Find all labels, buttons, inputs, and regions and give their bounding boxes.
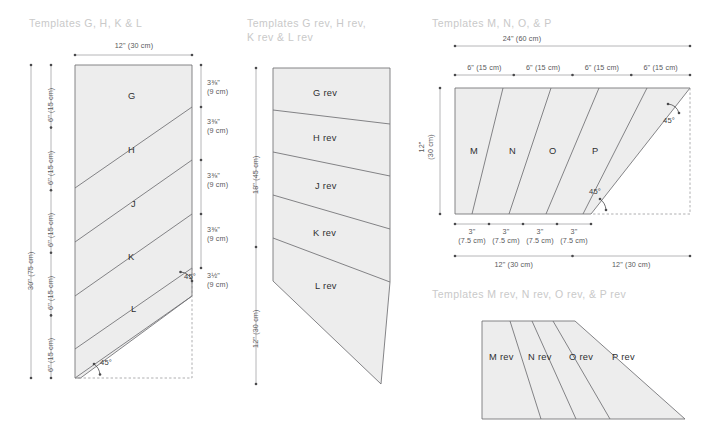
panel-3-bottom-dimension: 12" (30 cm) (573, 261, 691, 270)
panel-3-angle-label: 45° (663, 116, 675, 125)
piece-label-p-rev: P rev (612, 352, 635, 362)
panel-1-left-segment-dimension: 6" (15 cm) (47, 151, 56, 185)
panel-1-right-segment-dimension: 3⅜" (9 cm) (207, 172, 228, 189)
piece-label-h: H (128, 145, 135, 155)
panel-1-left-segment-dimension: 6" (15 cm) (47, 88, 56, 122)
piece-label-n-rev: N rev (528, 352, 552, 362)
panel-4-geometry (482, 321, 685, 419)
panel-1-angle-label: 45° (100, 358, 112, 367)
panel-1-right-segment-dimension: 3½" (9 cm) (207, 272, 228, 289)
panel-3-top-dimension: 24" (60 cm) (472, 35, 572, 44)
piece-label-n: N (509, 146, 516, 156)
panel-3-bottom-dimension: 12" (30 cm) (455, 261, 573, 270)
panel-3-bottom-segment: 3" (7.5 cm) (546, 228, 602, 245)
panel-1-angle-label: 45° (184, 272, 196, 281)
panel-3-angle-label: 45° (589, 187, 601, 196)
panel-2-upper-dimension: 18" (45 cm) (252, 155, 261, 194)
piece-label-l: L (131, 304, 136, 314)
piece-label-o: O (549, 146, 557, 156)
panel-1-title: Templates G, H, K & L (29, 17, 142, 31)
panel-3-top-segment: 6" (15 cm) (514, 64, 573, 73)
panel-4-title: Templates M rev, N rev, O rev, & P rev (432, 288, 626, 302)
piece-label-g-rev: G rev (313, 88, 337, 98)
panel-1-left-segment-dimension: 6" (15 cm) (47, 213, 56, 247)
panel-1-right-segment-dimension: 3⅜" (9 cm) (207, 226, 228, 243)
panel-1-left-outer-dimension: 30" (75 cm) (27, 251, 36, 290)
piece-label-l-rev: L rev (315, 281, 337, 291)
panel-1-right-segment-dimension: 3⅜" (9 cm) (207, 79, 228, 96)
piece-label-g: G (128, 91, 136, 101)
panel-2-title: Templates G rev, H rev, K rev & L rev (247, 17, 366, 44)
panel-3-top-segment: 6" (15 cm) (631, 64, 690, 73)
piece-label-k: K (128, 252, 135, 262)
panel-2-lower-dimension: 12" (30 cm) (252, 309, 261, 348)
piece-label-h-rev: H rev (313, 133, 337, 143)
piece-label-k-rev: K rev (313, 228, 336, 238)
panel-2-geometry (255, 67, 390, 386)
piece-label-j-rev: J rev (315, 181, 337, 191)
piece-label-p: P (592, 146, 599, 156)
piece-label-m-rev: M rev (489, 352, 514, 362)
panel-3-title: Templates M, N, O, & P (432, 17, 552, 31)
panel-1-left-segment-dimension: 6" (15 cm) (47, 276, 56, 310)
panel-1-right-segment-dimension: 3⅜" (9 cm) (207, 118, 228, 135)
panel-3-top-segment: 6" (15 cm) (573, 64, 632, 73)
panel-3-left-dimension: 12" (30 cm) (418, 126, 435, 168)
piece-label-j: J (131, 199, 136, 209)
panel-1-left-segment-dimension: 6" (15 cm) (47, 338, 56, 372)
panel-1-top-dimension: 12" (30 cm) (84, 42, 184, 51)
piece-label-o-rev: O rev (569, 352, 593, 362)
piece-label-m: M (470, 146, 478, 156)
panel-3-top-segment: 6" (15 cm) (455, 64, 514, 73)
